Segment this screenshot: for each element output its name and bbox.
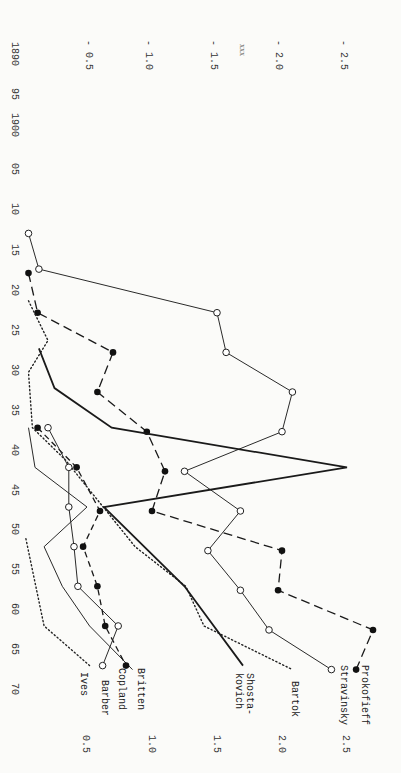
label-stravinsky: Stravinsky xyxy=(338,665,349,725)
filled-point-marker xyxy=(25,270,32,277)
bottom-tick: 1.0 xyxy=(146,735,157,753)
filled-point-marker xyxy=(275,587,282,594)
series-shosta-kovich xyxy=(39,348,347,665)
top-tick: - 0.5 xyxy=(83,40,94,70)
open-point-marker xyxy=(237,587,244,594)
open-point-marker xyxy=(71,543,78,550)
label-shostakovich-2: kovich xyxy=(233,673,244,709)
filled-point-marker xyxy=(97,508,104,515)
bottom-value-ticks: 0.5 1.0 1.5 2.0 2.5 xyxy=(80,735,351,753)
open-point-marker xyxy=(223,349,230,356)
filled-point-marker xyxy=(370,627,377,634)
filled-point-marker xyxy=(162,468,169,475)
year-tick: 10 xyxy=(9,203,20,215)
open-point-marker xyxy=(266,627,273,634)
top-tick: - 1.0 xyxy=(143,40,154,70)
open-point-marker xyxy=(205,547,212,554)
open-point-marker xyxy=(66,504,73,511)
year-tick: 60 xyxy=(9,603,20,615)
year-tick: 95 xyxy=(9,88,20,100)
open-point-marker xyxy=(279,428,286,435)
series-labels: Prokofieff Stravinsky Bartok Shosta- kov… xyxy=(78,665,370,725)
filled-point-marker xyxy=(279,547,286,554)
open-point-marker xyxy=(237,508,244,515)
open-point-marker xyxy=(181,468,188,475)
series-ives xyxy=(26,539,90,666)
year-tick: 20 xyxy=(9,284,20,296)
year-tick: 05 xyxy=(9,163,20,175)
year-tick: 45 xyxy=(9,484,20,496)
bottom-tick: 2.0 xyxy=(276,735,287,753)
year-tick: 65 xyxy=(9,643,20,655)
label-shostakovich-1: Shosta- xyxy=(244,673,255,715)
label-prokofieff: Prokofieff xyxy=(359,665,370,725)
label-barber: Barber xyxy=(99,680,110,716)
open-point-marker xyxy=(289,389,296,396)
bottom-tick: 0.5 xyxy=(80,735,91,753)
series-line xyxy=(29,301,293,670)
year-tick: 1890 xyxy=(9,42,20,66)
year-tick: 70 xyxy=(9,683,20,695)
open-point-marker xyxy=(75,583,82,590)
label-britten: Britten xyxy=(135,668,146,710)
open-point-marker xyxy=(115,623,122,630)
filled-point-marker xyxy=(110,349,117,356)
filled-point-marker xyxy=(80,543,87,550)
filled-point-marker xyxy=(34,424,41,431)
open-point-marker xyxy=(214,309,221,316)
open-point-marker xyxy=(99,662,106,669)
series-line xyxy=(39,348,347,665)
composer-line-chart: xxx - 0.5 - 1.0 - 1.5 - 2.0 - 2.5 0.5 1.… xyxy=(0,0,401,773)
open-point-marker xyxy=(328,666,335,673)
filled-point-marker xyxy=(353,666,360,673)
year-tick: 50 xyxy=(9,523,20,535)
year-tick: 1900 xyxy=(9,113,20,137)
open-point-marker xyxy=(45,424,52,431)
series-bartok xyxy=(29,301,293,670)
filled-point-marker xyxy=(102,623,109,630)
filled-point-marker xyxy=(73,464,80,471)
filled-point-marker xyxy=(94,583,101,590)
label-ives: Ives xyxy=(78,672,89,696)
series-line xyxy=(29,233,332,669)
bottom-tick: 1.5 xyxy=(211,735,222,753)
open-point-marker xyxy=(36,266,43,273)
open-point-marker xyxy=(25,230,32,237)
series-line xyxy=(26,539,90,666)
year-tick: 55 xyxy=(9,563,20,575)
filled-point-marker xyxy=(94,389,101,396)
top-tick: - 2.0 xyxy=(273,40,284,70)
top-tick: - 2.5 xyxy=(338,40,349,70)
year-tick: 35 xyxy=(9,404,20,416)
year-tick: 25 xyxy=(9,324,20,336)
top-value-ticks: - 0.5 - 1.0 - 1.5 - 2.0 - 2.5 xyxy=(83,40,349,70)
year-tick: 40 xyxy=(9,444,20,456)
annotation-xxx: xxx xyxy=(238,44,247,56)
label-bartok: Bartok xyxy=(289,681,300,717)
series-copland xyxy=(34,424,129,668)
open-point-marker xyxy=(66,464,73,471)
year-tick: 15 xyxy=(9,244,20,256)
year-axis-ticks: 1890 95 1900 05 10 15 20 25 30 35 40 45 … xyxy=(9,42,20,695)
series-stravinsky xyxy=(25,230,335,673)
filled-point-marker xyxy=(149,508,156,515)
top-tick: - 1.5 xyxy=(208,40,219,70)
series-layer xyxy=(25,230,376,673)
label-copland: Copland xyxy=(116,668,127,710)
bottom-tick: 2.5 xyxy=(340,735,351,753)
year-tick: 30 xyxy=(9,364,20,376)
